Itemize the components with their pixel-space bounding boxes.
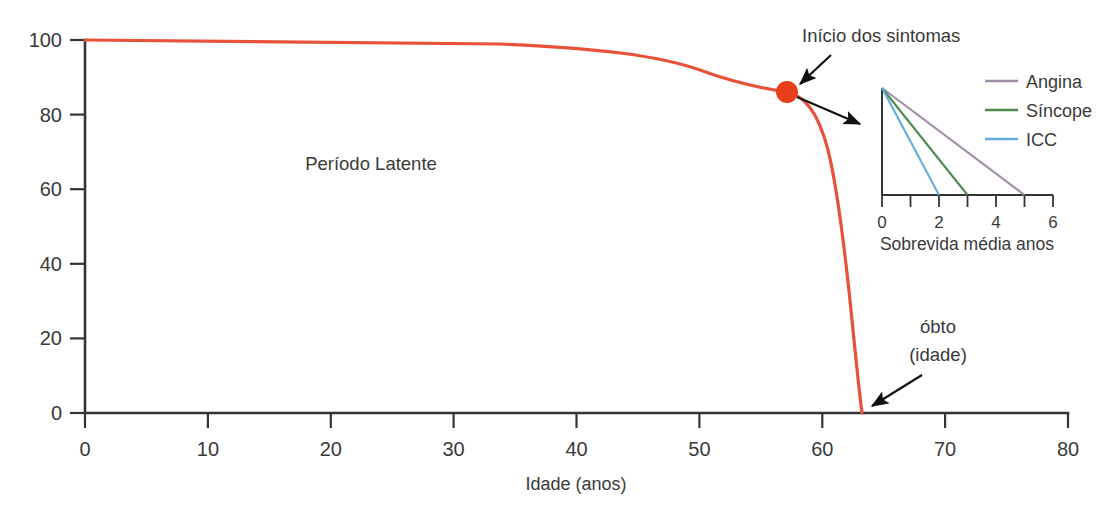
x-tick-label-0: 0 — [79, 438, 90, 460]
death-arrow — [872, 375, 922, 406]
death-label-line2: (idade) — [909, 344, 967, 365]
x-tick-label-50: 50 — [688, 438, 710, 460]
inset-series-angina — [882, 88, 1025, 195]
x-tick-label-40: 40 — [565, 438, 587, 460]
survival-curve-chart: 100 80 60 40 20 0 0 10 20 30 40 50 60 70… — [0, 0, 1120, 506]
survival-curve-line — [85, 40, 862, 413]
inset-x-tick-label-0: 0 — [877, 213, 886, 232]
x-tick-label-60: 60 — [811, 438, 833, 460]
latent-period-label: Período Latente — [305, 153, 437, 174]
x-axis-title: Idade (anos) — [525, 474, 626, 494]
death-label-line1: óbto — [920, 316, 956, 337]
x-tick-label-70: 70 — [934, 438, 956, 460]
legend-label-sincope: Síncope — [1026, 101, 1092, 121]
inset-chart: 0 2 4 6 Sobrevida média anos Angina Sínc… — [877, 72, 1092, 254]
x-tick-label-80: 80 — [1057, 438, 1079, 460]
inset-x-tick-label-6: 6 — [1048, 213, 1057, 232]
marker-to-inset-arrow — [797, 97, 860, 124]
y-tick-label-80: 80 — [40, 104, 62, 126]
inset-x-axis-title: Sobrevida média anos — [880, 234, 1054, 254]
y-axis-ticks: 100 80 60 40 20 0 — [29, 29, 85, 424]
inset-legend: Angina Síncope ICC — [985, 72, 1092, 150]
x-tick-label-20: 20 — [320, 438, 342, 460]
symptom-onset-marker-dot — [776, 81, 798, 103]
inset-x-tick-label-4: 4 — [991, 213, 1000, 232]
x-axis-ticks: 0 10 20 30 40 50 60 70 80 Idade (anos) — [79, 413, 1079, 494]
x-tick-label-10: 10 — [197, 438, 219, 460]
y-tick-label-20: 20 — [40, 327, 62, 349]
symptom-onset-annotation: Início dos sintomas — [797, 25, 960, 124]
y-tick-label-60: 60 — [40, 178, 62, 200]
symptom-onset-label: Início dos sintomas — [802, 25, 960, 46]
legend-label-icc: ICC — [1026, 130, 1057, 150]
inset-series-icc — [882, 88, 939, 195]
chart-container: 100 80 60 40 20 0 0 10 20 30 40 50 60 70… — [0, 0, 1120, 506]
symptom-onset-arrow — [800, 55, 831, 84]
inset-x-tick-label-2: 2 — [934, 213, 943, 232]
y-tick-label-40: 40 — [40, 253, 62, 275]
death-annotation: óbto (idade) — [872, 316, 967, 406]
y-tick-label-0: 0 — [51, 402, 62, 424]
y-tick-label-100: 100 — [29, 29, 62, 51]
x-tick-label-30: 30 — [442, 438, 464, 460]
legend-label-angina: Angina — [1026, 72, 1083, 92]
